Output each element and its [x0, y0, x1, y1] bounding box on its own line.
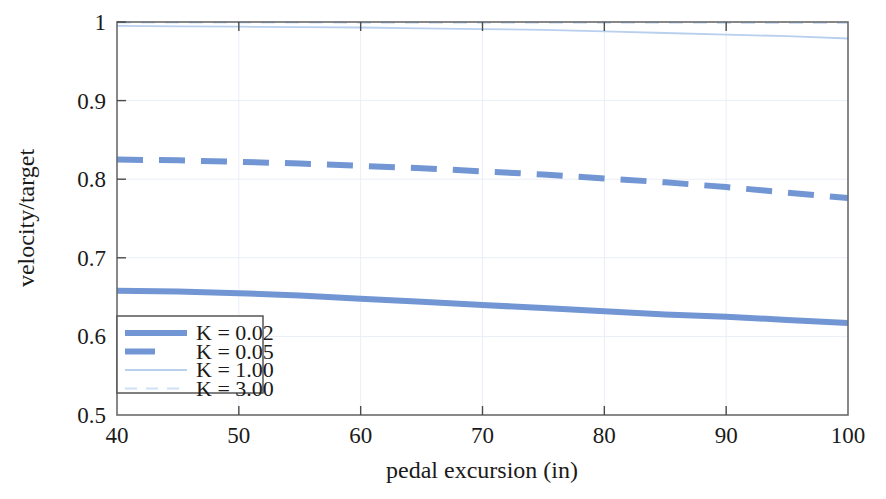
velocity-target-line-chart: 405060708090100 0.50.60.70.80.91 pedal e…	[0, 0, 886, 499]
x-tick-label: 50	[227, 423, 250, 448]
x-tick-label: 80	[593, 423, 616, 448]
x-tick-labels: 405060708090100	[106, 423, 866, 448]
y-tick-label: 1	[95, 10, 107, 35]
y-tick-label: 0.9	[77, 89, 106, 114]
x-tick-label: 40	[106, 423, 129, 448]
y-axis-title: velocity/target	[13, 149, 39, 288]
y-tick-label: 0.8	[77, 167, 106, 192]
x-axis-title: pedal excursion (in)	[386, 457, 578, 483]
x-tick-label: 90	[715, 423, 738, 448]
y-tick-label: 0.7	[77, 246, 106, 271]
legend-label-3: K = 3.00	[196, 376, 274, 401]
chart-figure: 405060708090100 0.50.60.70.80.91 pedal e…	[0, 0, 886, 499]
x-tick-label: 60	[349, 423, 372, 448]
legend: K = 0.02K = 0.05K = 1.00K = 3.00	[117, 316, 274, 401]
y-tick-label: 0.5	[77, 403, 106, 428]
y-tick-labels: 0.50.60.70.80.91	[77, 10, 106, 428]
x-tick-label: 70	[471, 423, 494, 448]
x-tick-label: 100	[831, 423, 866, 448]
y-tick-label: 0.6	[77, 324, 106, 349]
